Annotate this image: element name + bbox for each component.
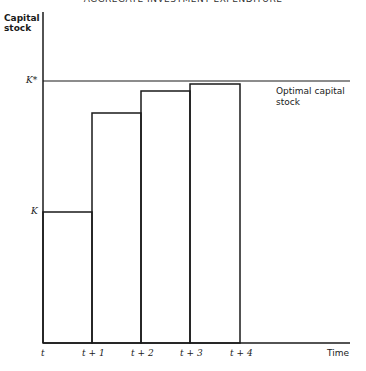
bar-t1 [92,113,141,343]
tick-t1: t + 1 [82,348,105,358]
bar-t3 [190,84,240,343]
y-axis-label-line1: Capital [4,13,40,23]
capital-stock-diagram [0,0,366,371]
y-axis-label-line2: stock [4,23,40,33]
k-star-label: K* [26,75,37,85]
tick-t3: t + 3 [180,348,203,358]
y-axis-label: Capital stock [4,13,40,33]
tick-t2: t + 2 [131,348,154,358]
x-axis-label: Time [327,348,349,358]
k-label: K [31,206,38,216]
optimal-line1: Optimal capital [276,86,345,97]
optimal-capital-annotation: Optimal capital stock [276,86,345,108]
tick-t: t [41,348,45,358]
bar-t2 [141,91,190,343]
optimal-line2: stock [276,97,345,108]
tick-t4: t + 4 [230,348,253,358]
bar-t [43,212,92,343]
